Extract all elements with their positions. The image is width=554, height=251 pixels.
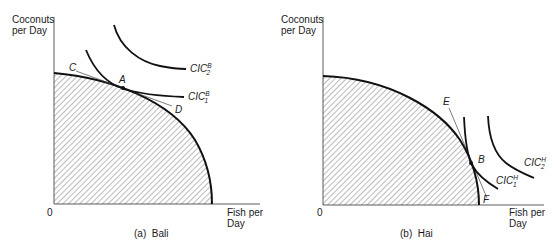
hai-cic2-sup: H xyxy=(541,156,546,163)
bali-point-a-marker xyxy=(121,86,125,90)
bali-point-c-label: C xyxy=(69,62,76,73)
bali-origin-label: 0 xyxy=(47,207,53,218)
hai-cic1-sup: H xyxy=(513,174,518,181)
bali-caption: (a) Bali xyxy=(134,228,168,239)
bali-cic1-label: CICB1 xyxy=(188,92,208,103)
hai-point-b-marker xyxy=(469,161,473,165)
hai-x-label-line2: Day xyxy=(509,218,545,229)
hai-y-label-line2: per Day xyxy=(281,25,323,36)
hai-x-axis-label: Fish per Day xyxy=(509,207,545,229)
hai-origin-label: 0 xyxy=(317,207,323,218)
hai-y-label-line1: Coconuts xyxy=(281,14,323,25)
bali-x-label-line2: Day xyxy=(227,218,263,229)
bali-point-a-label: A xyxy=(119,74,126,85)
bali-y-label-line1: Coconuts xyxy=(12,14,54,25)
panel-bali xyxy=(54,17,260,204)
hai-point-e-label: E xyxy=(443,96,450,107)
bali-cic2-sub: 2 xyxy=(207,69,211,76)
bali-x-axis-label: Fish per Day xyxy=(227,207,263,229)
bali-cic2-base: CIC xyxy=(190,63,207,74)
hai-point-f-label: F xyxy=(483,194,489,205)
hai-point-b-label: B xyxy=(478,154,485,165)
hai-cic1-label: CICH1 xyxy=(496,176,517,187)
hai-ppf-shaded-region xyxy=(323,76,479,205)
bali-point-d-label: D xyxy=(175,104,182,115)
bali-cic2-curve xyxy=(114,25,186,69)
bali-cic1-sup: B xyxy=(205,90,209,97)
hai-x-label-line1: Fish per xyxy=(509,207,545,218)
bali-y-label-line2: per Day xyxy=(12,25,54,36)
hai-y-axis-label: Coconuts per Day xyxy=(281,14,323,36)
hai-cic2-label: CICH2 xyxy=(524,158,545,169)
bali-y-axis-label: Coconuts per Day xyxy=(12,14,54,36)
hai-cic1-sub: 1 xyxy=(513,181,517,188)
hai-cic1-base: CIC xyxy=(496,175,513,186)
bali-cic1-base: CIC xyxy=(188,91,205,102)
bali-x-label-line1: Fish per xyxy=(227,207,263,218)
hai-caption: (b) Hai xyxy=(400,228,433,239)
bali-cic2-sup: B xyxy=(207,62,211,69)
bali-cic2-label: CICB2 xyxy=(190,64,210,75)
hai-cic2-sub: 2 xyxy=(541,163,545,170)
bali-cic1-sub: 1 xyxy=(205,97,209,104)
hai-cic2-base: CIC xyxy=(524,157,541,168)
diagram-canvas xyxy=(0,0,554,251)
